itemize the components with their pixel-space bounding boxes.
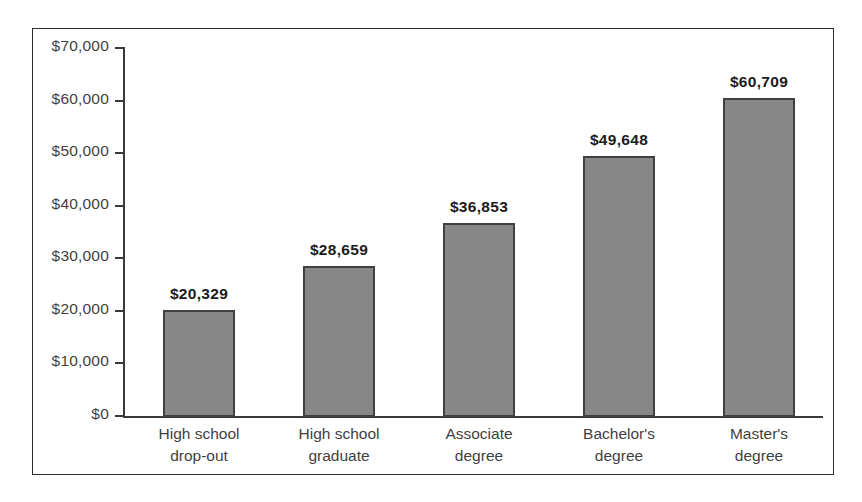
y-axis-tick-label: $20,000 bbox=[52, 300, 109, 318]
y-axis-tick-mark bbox=[115, 362, 125, 364]
x-axis-category-label-line: Associate bbox=[409, 423, 549, 445]
x-axis-category-label-line: degree bbox=[409, 445, 549, 467]
x-axis-category-label-line: Bachelor's bbox=[549, 423, 689, 445]
y-axis-tick-label: $0 bbox=[91, 405, 109, 423]
y-axis-tick-mark bbox=[115, 257, 125, 259]
y-axis-tick-label: $40,000 bbox=[52, 195, 109, 213]
bar-value-label: $28,659 bbox=[269, 241, 409, 259]
x-axis-category-label-line: High school bbox=[269, 423, 409, 445]
x-axis-category-label: Associatedegree bbox=[409, 423, 549, 467]
y-axis-tick-mark bbox=[115, 415, 125, 417]
x-axis-category-label-line: degree bbox=[549, 445, 689, 467]
bar[interactable] bbox=[723, 98, 795, 417]
bar-column: $20,329 bbox=[129, 48, 269, 417]
y-axis-tick-label: $50,000 bbox=[52, 142, 109, 160]
y-axis-tick-mark bbox=[115, 100, 125, 102]
y-axis-tick-label: $70,000 bbox=[52, 37, 109, 55]
y-axis-tick-label: $10,000 bbox=[52, 352, 109, 370]
bar[interactable] bbox=[583, 156, 655, 417]
y-axis-tick-mark bbox=[115, 152, 125, 154]
bar-value-label: $60,709 bbox=[689, 73, 829, 91]
plot-area: $70,000$60,000$50,000$40,000$30,000$20,0… bbox=[33, 29, 833, 474]
bar-value-label: $49,648 bbox=[549, 131, 689, 149]
y-axis-tick-mark bbox=[115, 310, 125, 312]
bar[interactable] bbox=[443, 223, 515, 417]
bar-value-label: $36,853 bbox=[409, 198, 549, 216]
bar[interactable] bbox=[303, 266, 375, 417]
bar-column: $49,648 bbox=[549, 48, 689, 417]
bar-column: $36,853 bbox=[409, 48, 549, 417]
x-axis-category-label: High schooldrop-out bbox=[129, 423, 269, 467]
x-axis-category-label-line: High school bbox=[129, 423, 269, 445]
bar-column: $60,709 bbox=[689, 48, 829, 417]
bar[interactable] bbox=[163, 310, 235, 417]
x-axis-category-label: High schoolgraduate bbox=[269, 423, 409, 467]
y-axis-tick-mark bbox=[115, 205, 125, 207]
x-axis-category-label-line: graduate bbox=[269, 445, 409, 467]
bar-column: $28,659 bbox=[269, 48, 409, 417]
x-axis-category-label: Master'sdegree bbox=[689, 423, 829, 467]
bar-value-label: $20,329 bbox=[129, 285, 269, 303]
x-axis-category-label: Bachelor'sdegree bbox=[549, 423, 689, 467]
x-axis-category-label-line: Master's bbox=[689, 423, 829, 445]
x-axis-category-label-line: drop-out bbox=[129, 445, 269, 467]
y-axis-tick-label: $30,000 bbox=[52, 247, 109, 265]
chart-frame: $70,000$60,000$50,000$40,000$30,000$20,0… bbox=[32, 28, 834, 475]
y-axis-tick-label: $60,000 bbox=[52, 90, 109, 108]
x-axis-category-label-line: degree bbox=[689, 445, 829, 467]
y-axis-tick-mark bbox=[115, 47, 125, 49]
